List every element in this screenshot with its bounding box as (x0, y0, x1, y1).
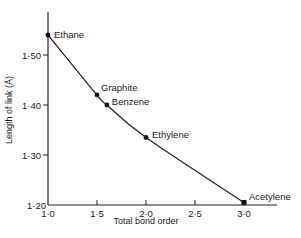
data-point-marker (242, 200, 247, 205)
data-points (46, 33, 247, 205)
y-tick-label: 1·40 (22, 100, 41, 111)
point-label-ethane: Ethane (54, 29, 84, 40)
trend-curve (48, 35, 244, 203)
point-label-benzene: Benzene (112, 96, 150, 107)
data-point-marker (144, 135, 149, 140)
point-label-graphite: Graphite (101, 82, 137, 93)
data-point-marker (46, 33, 51, 38)
point-labels: EthaneGraphiteBenzeneEthyleneAcetylene (54, 29, 291, 202)
x-tick-label: 3·0 (237, 208, 251, 219)
axes: 1·01·52·02·53·01·201·301·401·50 (22, 12, 277, 219)
x-tick-label: 2·5 (188, 208, 202, 219)
y-tick-label: 1·50 (22, 50, 41, 61)
x-axis-title: Total bond order (113, 216, 178, 226)
y-tick-label: 1·20 (27, 200, 46, 211)
x-tick-label: 1·5 (90, 208, 104, 219)
bond-length-chart: 1·01·52·02·53·01·201·301·401·50 EthaneGr… (0, 0, 301, 238)
data-point-marker (95, 93, 100, 98)
y-tick-label: 1·30 (22, 150, 41, 161)
point-label-acetylene: Acetylene (249, 191, 291, 202)
data-point-marker (104, 103, 109, 108)
fit-curve (48, 35, 244, 203)
y-axis-title: Length of link (Å) (4, 76, 14, 144)
point-label-ethylene: Ethylene (152, 129, 189, 140)
